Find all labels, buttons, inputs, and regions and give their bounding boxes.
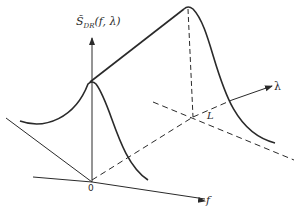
lambda-axis	[232, 86, 272, 100]
origin-label: 0	[88, 183, 94, 193]
diagram-canvas: S̃DR(f, λ) 0 f λ L	[0, 0, 296, 210]
vertical-axis-subscript: DR	[84, 22, 95, 30]
f-parallel-at-L	[153, 102, 294, 160]
diagram-svg	[0, 0, 296, 210]
vertical-axis-symbol: S̃	[76, 15, 84, 28]
f-axis-back	[6, 118, 92, 182]
lambda-axis-label: λ	[274, 80, 281, 93]
spectrum-curve-right	[184, 7, 275, 143]
lambda-axis-dashed	[92, 117, 193, 180]
L-mark-label: L	[207, 110, 214, 121]
vertical-axis-label: S̃DR(f, λ)	[76, 15, 121, 28]
f-axis-label: f	[206, 194, 210, 207]
spectrum-curve-left	[20, 82, 148, 180]
vertical-axis-args: (f, λ)	[94, 15, 120, 28]
f-axis	[92, 182, 205, 199]
vertical-drop-at-L	[188, 9, 193, 117]
lambda-axis-back	[33, 177, 92, 182]
